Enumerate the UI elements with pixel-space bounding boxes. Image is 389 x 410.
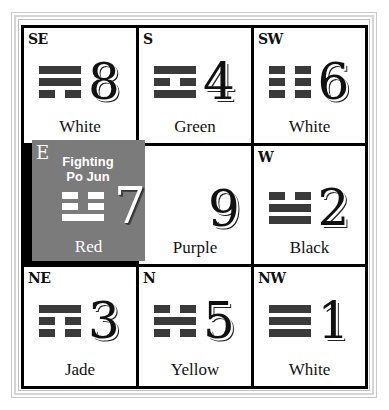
direction-label: SE bbox=[28, 31, 48, 47]
trigram-icon bbox=[62, 192, 104, 221]
color-label: Red bbox=[32, 237, 145, 257]
star-number: 7 bbox=[114, 181, 146, 231]
trigram-icon bbox=[154, 66, 196, 98]
affliction-label: Fighting Po Jun bbox=[58, 154, 118, 184]
cell-s: S 4 Green bbox=[139, 28, 251, 143]
cell-n: N 5 Yellow bbox=[139, 267, 251, 386]
cell-e-highlighted: E Fighting Po Jun 7 Red bbox=[32, 140, 145, 261]
direction-label: W bbox=[258, 149, 273, 165]
star-number: 4 bbox=[202, 57, 236, 107]
star-number: 2 bbox=[317, 183, 351, 233]
direction-label: NE bbox=[28, 270, 50, 286]
trigram-icon bbox=[39, 66, 81, 98]
cell-sw: SW 6 White bbox=[254, 28, 365, 143]
color-label: Green bbox=[139, 117, 251, 137]
direction-label: NW bbox=[258, 270, 286, 286]
affliction-line-1: Fighting bbox=[58, 154, 118, 169]
cell-ne: NE 3 Jade bbox=[24, 267, 136, 386]
color-label: White bbox=[254, 360, 365, 380]
trigram-icon bbox=[269, 66, 311, 98]
direction-label: E bbox=[36, 142, 49, 163]
trigram-icon bbox=[154, 305, 196, 337]
direction-label: S bbox=[143, 31, 153, 47]
trigram-icon bbox=[269, 305, 311, 337]
cell-se: SE 8 White bbox=[24, 28, 136, 143]
color-label: Purple bbox=[139, 238, 251, 258]
trigram-icon bbox=[39, 305, 81, 337]
color-label: Jade bbox=[24, 360, 136, 380]
color-label: White bbox=[254, 117, 365, 137]
star-number: 6 bbox=[317, 57, 351, 107]
affliction-line-2: Po Jun bbox=[58, 169, 118, 184]
color-label: Yellow bbox=[139, 360, 251, 380]
direction-label: SW bbox=[258, 31, 283, 47]
direction-label: N bbox=[143, 270, 155, 286]
cell-w: W 2 Black bbox=[254, 146, 365, 264]
trigram-icon bbox=[269, 192, 311, 224]
star-number: 1 bbox=[317, 296, 351, 346]
star-number: 5 bbox=[202, 296, 236, 346]
star-number: 3 bbox=[87, 296, 121, 346]
color-label: White bbox=[24, 117, 136, 137]
color-label: Black bbox=[254, 238, 365, 258]
star-number: 8 bbox=[87, 57, 121, 107]
star-number: 9 bbox=[207, 184, 241, 234]
cell-nw: NW 1 White bbox=[254, 267, 365, 386]
cell-center: 9 Purple bbox=[139, 146, 251, 264]
